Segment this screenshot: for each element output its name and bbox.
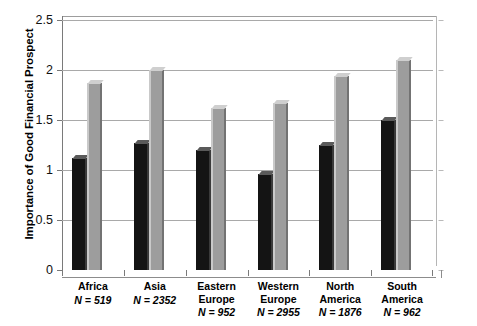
plot-floor-front-edge	[62, 277, 436, 278]
plot-back-wall-top	[62, 16, 436, 17]
y-tick-label: 1	[46, 163, 53, 177]
bar-series1	[196, 150, 209, 270]
bar-chart: Importance of Good Financial Prospect 00…	[0, 0, 477, 326]
x-tick-mark	[371, 270, 372, 276]
bar-side-face	[409, 60, 411, 270]
bar-series2	[87, 83, 100, 270]
sample-size-value: 962	[403, 306, 421, 318]
category-name-line: Africa	[62, 280, 124, 293]
sample-size-value: 952	[218, 306, 236, 318]
plot-back-wall-right	[436, 16, 437, 266]
sample-size-label: N = 962	[371, 306, 433, 319]
gridline-depth-connector	[433, 220, 444, 226]
sample-size-value: 2955	[277, 306, 300, 318]
x-axis-category-label: NorthAmericaN = 1876	[309, 280, 371, 319]
bar-series2	[273, 103, 286, 270]
bar-face	[134, 143, 147, 270]
bar-face	[196, 150, 209, 270]
x-tick-mark	[248, 270, 249, 276]
bar-group	[62, 20, 124, 270]
sample-size-label: N = 952	[186, 306, 248, 319]
sample-size-label: N = 1876	[309, 306, 371, 319]
gridline-depth-connector	[433, 20, 444, 26]
plot-area: 00.511.522.5	[62, 20, 433, 270]
bar-side-face	[286, 103, 288, 270]
x-axis-category-label: WesternEuropeN = 2955	[248, 280, 310, 319]
x-tick-mark	[124, 270, 125, 276]
x-axis-category-label: AfricaN = 519	[62, 280, 124, 306]
bar-face	[258, 174, 271, 270]
x-tick-mark	[309, 270, 310, 276]
bar-side-face	[162, 70, 164, 270]
category-name-line: Europe	[186, 293, 248, 306]
bar-series2	[149, 70, 162, 270]
x-axis-ticks	[62, 270, 433, 276]
bar-group	[309, 20, 371, 270]
category-name-line: America	[309, 293, 371, 306]
bar-groups	[62, 20, 433, 270]
x-axis-labels: AfricaN = 519AsiaN = 2352EasternEuropeN …	[62, 280, 433, 326]
bar-top-face	[273, 100, 289, 104]
bar-face	[381, 120, 394, 270]
y-tick-label: 0	[46, 263, 53, 277]
category-name-line: Eastern	[186, 280, 248, 293]
sample-size-prefix: N =	[74, 294, 91, 306]
bar-series1	[134, 143, 147, 270]
gridline-depth-connector	[433, 120, 444, 126]
bar-side-face	[224, 108, 226, 270]
y-tick-label: 1.5	[36, 113, 53, 127]
x-tick-mark	[432, 270, 433, 276]
bar-face	[334, 76, 347, 270]
x-axis-category-label: EasternEuropeN = 952	[186, 280, 248, 319]
sample-size-value: 2352	[153, 294, 176, 306]
bar-series2	[396, 60, 409, 270]
bar-side-face	[100, 83, 102, 270]
bar-group	[124, 20, 186, 270]
bar-side-face	[347, 76, 349, 270]
sample-size-label: N = 519	[62, 294, 124, 307]
sample-size-value: 1876	[338, 306, 361, 318]
bar-group	[371, 20, 433, 270]
x-tick-mark	[186, 270, 187, 276]
y-tick-label: 2	[46, 63, 53, 77]
bar-face	[396, 60, 409, 270]
sample-size-label: N = 2352	[124, 294, 186, 307]
bar-series1	[319, 145, 332, 270]
bar-series1	[381, 120, 394, 270]
sample-size-prefix: N =	[319, 306, 336, 318]
x-axis-category-label: AsiaN = 2352	[124, 280, 186, 306]
sample-size-prefix: N =	[257, 306, 274, 318]
y-tick-label: 0.5	[36, 213, 53, 227]
category-name-line: America	[371, 293, 433, 306]
gridline-depth-connector	[433, 70, 444, 76]
bar-series2	[211, 108, 224, 270]
sample-size-value: 519	[94, 294, 112, 306]
y-tick-label: 2.5	[36, 13, 53, 27]
sample-size-prefix: N =	[198, 306, 215, 318]
x-tick-mark	[62, 270, 63, 276]
bar-face	[149, 70, 162, 270]
category-name-line: Europe	[248, 293, 310, 306]
plot-floor-depth-edge	[432, 270, 442, 278]
category-name-line: South	[371, 280, 433, 293]
category-name-line: Asia	[124, 280, 186, 293]
y-axis-title: Importance of Good Financial Prospect	[23, 0, 35, 269]
x-axis-category-label: SouthAmericaN = 962	[371, 280, 433, 319]
bar-face	[211, 108, 224, 270]
sample-size-prefix: N =	[133, 294, 150, 306]
bar-face	[273, 103, 286, 270]
gridline-depth-connector	[433, 170, 444, 176]
bar-face	[319, 145, 332, 270]
bar-group	[248, 20, 310, 270]
bar-series1	[72, 158, 85, 270]
sample-size-label: N = 2955	[248, 306, 310, 319]
sample-size-prefix: N =	[384, 306, 401, 318]
category-name-line: North	[309, 280, 371, 293]
bar-face	[87, 83, 100, 270]
bar-group	[186, 20, 248, 270]
bar-series2	[334, 76, 347, 270]
category-name-line: Western	[248, 280, 310, 293]
bar-series1	[258, 174, 271, 270]
bar-face	[72, 158, 85, 270]
